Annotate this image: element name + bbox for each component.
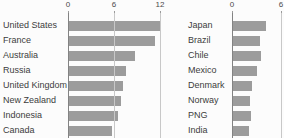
category-label: Brazil (188, 33, 232, 48)
gridline (281, 13, 282, 138)
bar (232, 96, 250, 106)
bar-row (232, 18, 281, 33)
bar (232, 81, 252, 91)
plot-area: 06 (232, 0, 281, 138)
bar (68, 51, 135, 61)
chart-panel-right: JapanBrazilChileMexicoDenmarkNorwayPNGIn… (160, 0, 284, 138)
dual-bar-chart: United StatesFranceAustraliaRussiaUnited… (0, 0, 284, 138)
bar-row (232, 78, 281, 93)
bar (232, 66, 257, 76)
category-label: United Kingdom (3, 78, 68, 93)
bar-row (232, 93, 281, 108)
category-label: Canada (3, 123, 68, 138)
bar-row (232, 33, 281, 48)
category-labels: JapanBrazilChileMexicoDenmarkNorwayPNGIn… (160, 0, 232, 138)
plot-area: 0612 (68, 0, 160, 138)
bars-container (232, 18, 281, 138)
bar (232, 51, 261, 61)
category-label: Russia (3, 63, 68, 78)
x-tick-label: 6 (112, 1, 116, 9)
bar (68, 66, 126, 76)
bar (68, 111, 118, 121)
bar (232, 111, 251, 121)
bar (232, 21, 266, 31)
bar (68, 36, 155, 46)
bar (68, 126, 112, 136)
bar-row (232, 108, 281, 123)
gridline (114, 13, 115, 138)
category-label: Denmark (188, 78, 232, 93)
category-label: PNG (188, 108, 232, 123)
bar-row (232, 48, 281, 63)
category-label: Chile (188, 48, 232, 63)
category-label: United States (3, 18, 68, 33)
chart-panel-left: United StatesFranceAustraliaRussiaUnited… (0, 0, 162, 138)
category-label: India (188, 123, 232, 138)
category-label: New Zealand (3, 93, 68, 108)
x-tick-label: 0 (66, 1, 70, 9)
category-label: Japan (188, 18, 232, 33)
x-tick-label: 0 (230, 1, 234, 9)
axis-baseline (232, 13, 233, 138)
bar (68, 96, 121, 106)
x-tick-label: 6 (279, 1, 283, 9)
category-label: Australia (3, 48, 68, 63)
bar (232, 36, 260, 46)
category-labels: United StatesFranceAustraliaRussiaUnited… (0, 0, 68, 138)
bar (232, 126, 249, 136)
bar-row (232, 123, 281, 138)
category-label: Norway (188, 93, 232, 108)
bar-row (232, 63, 281, 78)
category-label: Mexico (188, 63, 232, 78)
category-label: Indonesia (3, 108, 68, 123)
category-label: France (3, 33, 68, 48)
axis-baseline (68, 13, 69, 138)
